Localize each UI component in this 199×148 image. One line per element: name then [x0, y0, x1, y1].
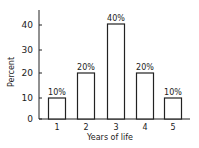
x-tick-label: 2 [83, 123, 88, 132]
bar-year-1 [49, 98, 66, 119]
bar-chart: 0 10 20 30 40 Percent 10% 20% 40% 20% 10… [0, 0, 199, 148]
bars [49, 24, 182, 119]
x-tick-labels: 1 2 3 4 5 [54, 123, 175, 132]
y-axis-label: Percent [7, 57, 16, 87]
data-label: 10% [164, 88, 182, 97]
y-tick-label: 30 [22, 45, 34, 55]
x-tick-label: 5 [170, 123, 175, 132]
x-axis-label: Years of life [86, 133, 133, 142]
bar-year-2 [78, 73, 95, 119]
bar-year-3 [108, 24, 125, 119]
bar-year-4 [137, 73, 154, 119]
x-tick-label: 1 [54, 123, 59, 132]
data-label: 10% [48, 88, 66, 97]
y-tick-label: 0 [27, 114, 33, 124]
data-label: 20% [77, 63, 95, 72]
y-tick-label: 10 [22, 93, 34, 103]
x-tick-label: 3 [113, 123, 118, 132]
data-label: 20% [136, 63, 154, 72]
y-tick-label: 40 [22, 20, 34, 30]
x-tick-label: 4 [142, 123, 147, 132]
bar-year-5 [165, 98, 182, 119]
y-tick-label: 20 [22, 68, 34, 78]
data-label: 40% [107, 14, 125, 23]
